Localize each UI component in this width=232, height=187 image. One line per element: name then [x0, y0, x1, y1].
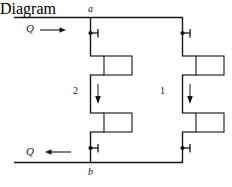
- outlet-flow-label: Q: [26, 146, 34, 157]
- component-left-lower: [104, 113, 132, 132]
- component-right-lower: [196, 113, 224, 132]
- outlet-flow-arrow: [45, 149, 71, 155]
- component-right-upper: [196, 56, 224, 75]
- left-branch-flow-arrow: [95, 84, 101, 104]
- branch-label-2: 2: [73, 86, 78, 96]
- figure-canvas: a b Q Q 2 1: [0, 0, 232, 187]
- inlet-flow-label: Q: [26, 23, 34, 34]
- node-label-a: a: [88, 4, 93, 14]
- branch-label-1: 1: [160, 86, 165, 96]
- right-branch-flow-arrow: [187, 84, 193, 104]
- inlet-flow-arrow: [40, 27, 66, 33]
- node-label-b: b: [88, 167, 93, 177]
- circuit-schematic: [0, 0, 232, 187]
- component-left-upper: [104, 56, 132, 75]
